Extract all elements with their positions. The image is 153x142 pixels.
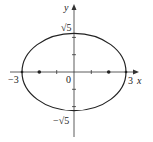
x-axis-label: x: [136, 75, 142, 86]
ellipse-diagram: y x 0 −3 3 √5 −√5: [0, 0, 153, 142]
origin-label: 0: [66, 74, 71, 85]
y-axis-arrow-icon: [72, 4, 77, 10]
focus-left-point: [38, 70, 42, 74]
y-intercept-bottom-label: −√5: [53, 115, 69, 126]
y-axis-label: y: [63, 2, 69, 13]
y-intercept-top-label: √5: [61, 22, 72, 33]
focus-right-point: [107, 70, 111, 74]
x-axis-arrow-icon: [133, 70, 139, 75]
vertex-left-point: [21, 71, 24, 74]
x-intercept-right-label: 3: [128, 75, 133, 86]
x-intercept-left-label: −3: [8, 74, 19, 85]
vertex-right-point: [125, 71, 128, 74]
